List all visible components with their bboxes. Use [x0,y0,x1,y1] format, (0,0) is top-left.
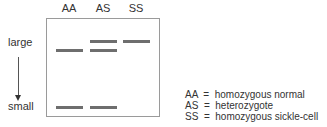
axis-label-small: small [8,100,34,112]
gel-frame [46,18,160,117]
band-as-upper [90,40,117,43]
legend-ss: SS = homozygous sickle-cell [185,111,318,122]
lane-label-as: AS [89,2,117,14]
legend-aa: AA = homozygous normal [185,89,305,100]
lane-label-ss: SS [122,2,150,14]
band-aa-small [56,106,83,109]
legend-as: AS = heterozygote [185,100,273,111]
band-as-small [90,106,117,109]
lane-label-aa: AA [55,2,83,14]
band-as-large [90,49,117,52]
band-ss-upper [123,40,150,43]
band-aa-large [56,49,83,52]
size-arrow-line [18,57,19,97]
axis-label-large: large [8,36,32,48]
